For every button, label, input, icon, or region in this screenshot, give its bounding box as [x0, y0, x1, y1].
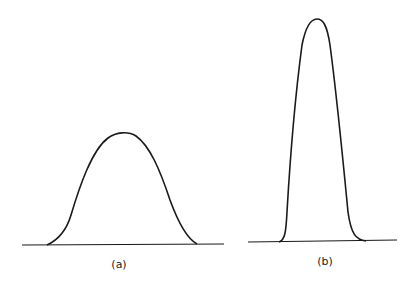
bell-curve-b — [279, 19, 366, 242]
baseline-b — [248, 240, 397, 242]
panel-b — [248, 19, 397, 242]
bell-curve-a — [47, 133, 197, 245]
diagram-canvas — [0, 0, 415, 285]
panel-a — [22, 133, 224, 245]
baseline-a — [22, 244, 224, 245]
panel-label-b: (b) — [317, 255, 333, 268]
panel-label-a: (a) — [111, 258, 126, 271]
